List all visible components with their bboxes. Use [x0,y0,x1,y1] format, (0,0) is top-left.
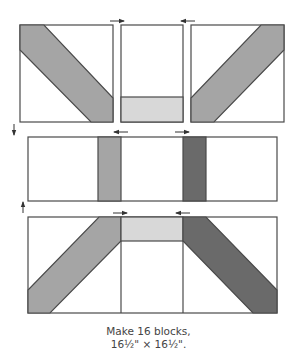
light-strip [121,217,183,241]
top-center-block [121,25,183,122]
medium-vertical-bar [98,137,121,201]
top-left-block [20,25,113,122]
light-strip [121,97,183,122]
caption-line-2: 16½" × 16½". [0,338,297,351]
top-row [20,25,284,122]
bottom-row [28,217,277,313]
quilt-block-assembly-diagram [0,0,297,351]
middle-strip [28,137,277,201]
top-right-block [191,25,284,122]
dark-vertical-bar [183,137,206,201]
row-press-arrows [14,124,23,213]
middle-row [28,137,277,201]
caption-line-1: Make 16 blocks, [0,325,297,338]
